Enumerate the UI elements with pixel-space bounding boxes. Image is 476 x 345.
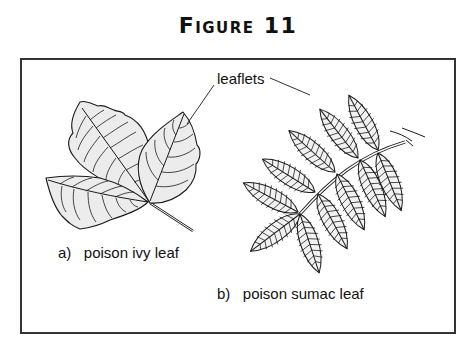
poison-sumac-leaf-icon [238, 90, 425, 276]
caption-poison-sumac: b) poison sumac leaf [217, 285, 364, 302]
poison-ivy-leaf-icon [46, 101, 200, 231]
leaflets-label: leaflets [217, 70, 265, 87]
caption-poison-ivy: a) poison ivy leaf [58, 244, 179, 261]
